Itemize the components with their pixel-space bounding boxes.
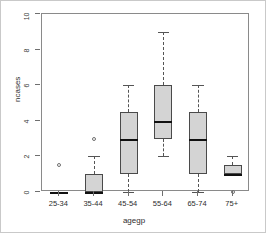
x-axis-tick-label: 55-64 — [153, 199, 172, 208]
box-rect — [120, 112, 138, 174]
median-line — [85, 192, 103, 194]
y-axis-tick-label: 4 — [24, 119, 31, 123]
whisker-cap-lower — [158, 156, 170, 157]
x-axis-tick — [232, 191, 233, 196]
whisker-cap-upper — [227, 156, 239, 157]
x-axis-tick — [197, 191, 198, 196]
y-axis-tick — [35, 155, 40, 156]
box-rect — [154, 85, 172, 138]
whisker-upper — [198, 85, 199, 112]
box-rect — [85, 174, 103, 192]
x-axis-tick-label: 65-74 — [187, 199, 206, 208]
x-axis-tick-label: 75+ — [225, 199, 238, 208]
whisker-lower — [163, 139, 164, 157]
whisker-upper — [128, 85, 129, 112]
y-axis-tick — [35, 49, 40, 50]
outlier-point — [92, 137, 96, 141]
y-axis-tick-label: 10 — [24, 13, 31, 21]
y-axis-tick — [35, 13, 40, 14]
whisker-upper — [163, 32, 164, 85]
y-axis-tick-label: 8 — [24, 48, 31, 52]
y-axis-tick-label: 2 — [24, 155, 31, 159]
whisker-cap-upper — [123, 85, 135, 86]
x-axis-tick-label: 25-34 — [49, 199, 68, 208]
x-axis-tick — [58, 191, 59, 196]
boxplot-figure: ncases agegp 024681025-3435-4445-5455-64… — [0, 0, 266, 233]
whisker-cap-upper — [88, 156, 100, 157]
whisker-lower — [128, 174, 129, 192]
median-line — [50, 192, 68, 194]
y-axis-tick — [35, 191, 40, 192]
box-rect — [224, 165, 242, 174]
whisker-cap-lower — [192, 192, 204, 193]
box-rect — [189, 112, 207, 174]
x-axis-tick — [93, 191, 94, 196]
median-line — [154, 121, 172, 123]
whisker-cap-lower — [123, 192, 135, 193]
whisker-upper — [94, 156, 95, 174]
y-axis-title: ncases — [13, 77, 22, 102]
whisker-lower — [198, 174, 199, 192]
median-line — [224, 174, 242, 176]
y-axis-tick-label: 6 — [24, 84, 31, 88]
outlier-point — [57, 163, 61, 167]
x-axis-tick — [128, 191, 129, 196]
whisker-cap-upper — [158, 32, 170, 33]
plot-area — [41, 13, 249, 191]
whisker-upper — [232, 156, 233, 165]
y-axis-tick-label: 0 — [24, 191, 31, 195]
whisker-cap-upper — [192, 85, 204, 86]
median-line — [189, 139, 207, 141]
x-axis-title: agegp — [1, 216, 266, 225]
x-axis-tick — [162, 191, 163, 196]
x-axis-tick-label: 35-44 — [83, 199, 102, 208]
y-axis-tick — [35, 84, 40, 85]
y-axis-tick — [35, 120, 40, 121]
median-line — [120, 139, 138, 141]
x-axis-tick-label: 45-54 — [118, 199, 137, 208]
